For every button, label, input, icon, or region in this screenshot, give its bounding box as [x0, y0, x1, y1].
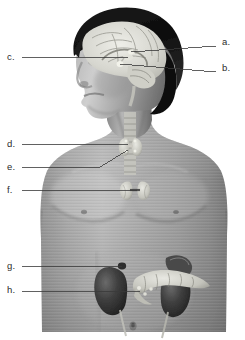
label-c: c.	[7, 52, 15, 62]
label-g: g.	[7, 261, 15, 271]
label-b: b.	[222, 63, 230, 73]
endocrine-diagram-figure: a. b. c. d. e. f. g. h.	[0, 0, 245, 340]
leader-line-h	[22, 291, 140, 292]
leader-lines-layer	[0, 0, 245, 340]
leader-line-e	[22, 150, 128, 167]
leader-line-b	[120, 64, 216, 72]
label-e: e.	[7, 162, 15, 172]
label-h: h.	[7, 285, 15, 295]
label-a: a.	[222, 37, 230, 47]
label-d: d.	[7, 139, 15, 149]
leader-line-g	[22, 266, 122, 267]
label-f: f.	[7, 185, 13, 195]
leader-line-a	[131, 46, 216, 52]
